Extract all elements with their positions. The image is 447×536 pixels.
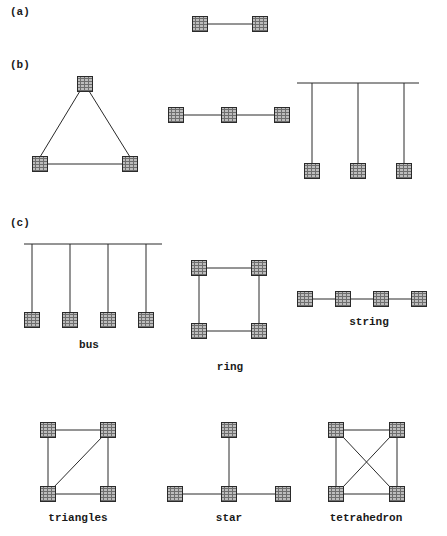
node (139, 313, 154, 328)
three-node-string (169, 108, 290, 123)
node (275, 108, 290, 123)
ring-label: ring (217, 361, 243, 373)
panel-c: (c) bus ring (10, 217, 427, 524)
node (192, 261, 207, 276)
node (222, 487, 237, 502)
node (123, 157, 138, 172)
node (168, 487, 183, 502)
panel-a-label: (a) (10, 6, 30, 18)
node (390, 487, 405, 502)
triangle-topology (33, 77, 138, 172)
triangles-label: triangles (48, 512, 107, 524)
node (397, 164, 412, 179)
node (169, 108, 184, 123)
topology-figure: (a) (b) (0, 0, 447, 536)
node (222, 423, 237, 438)
node (253, 17, 268, 32)
node (329, 487, 344, 502)
panel-b: (b) (10, 59, 419, 179)
node (192, 324, 207, 339)
node (63, 313, 78, 328)
node (25, 313, 40, 328)
node (101, 423, 116, 438)
node (390, 423, 405, 438)
ring-topology: ring (192, 261, 267, 374)
three-node-bus (297, 83, 419, 179)
node (298, 292, 313, 307)
tetrahedron-label: tetrahedron (330, 512, 403, 524)
node (78, 77, 93, 92)
node (336, 292, 351, 307)
node (252, 324, 267, 339)
node (276, 487, 291, 502)
panel-c-label: (c) (10, 217, 30, 229)
node (374, 292, 389, 307)
bus-label: bus (79, 339, 99, 351)
bus-topology: bus (24, 244, 162, 351)
node (41, 487, 56, 502)
node (252, 261, 267, 276)
tetrahedron-topology: tetrahedron (329, 423, 405, 525)
node (305, 164, 320, 179)
string-topology: string (298, 292, 427, 329)
node (329, 423, 344, 438)
node (412, 292, 427, 307)
panel-a: (a) (10, 6, 268, 32)
node (101, 487, 116, 502)
panel-b-label: (b) (10, 59, 30, 71)
star-label: star (216, 512, 242, 524)
node (41, 423, 56, 438)
node (222, 108, 237, 123)
triangles-topology: triangles (41, 423, 116, 525)
star-topology: star (168, 423, 291, 525)
string-label: string (349, 316, 389, 328)
node (101, 313, 116, 328)
node (193, 17, 208, 32)
node (351, 164, 366, 179)
node (33, 157, 48, 172)
